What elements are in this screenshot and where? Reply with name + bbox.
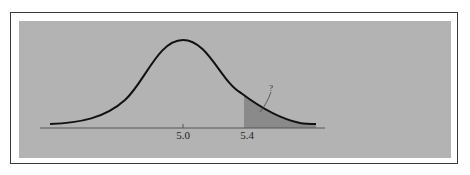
tick-label-mean: 5.0	[176, 129, 190, 141]
bell-curve	[50, 40, 316, 124]
tick-label-cutoff: 5.4	[240, 129, 254, 141]
normal-curve-chart	[0, 0, 470, 175]
question-annotation: ?	[269, 83, 273, 93]
